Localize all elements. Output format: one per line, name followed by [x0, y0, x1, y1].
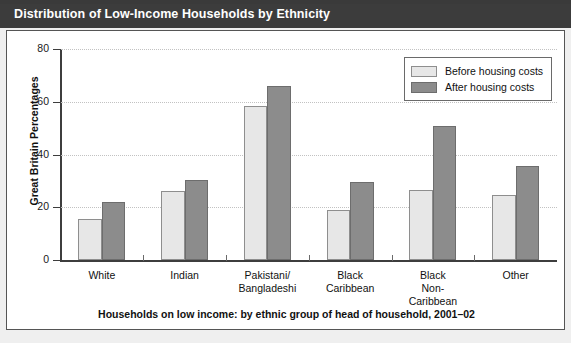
x-axis-group-separator [143, 255, 144, 261]
x-axis-category-label-line: Caribbean [309, 282, 392, 295]
y-axis-tick [53, 207, 61, 208]
bar-before-housing-costs [161, 191, 185, 260]
y-axis-tick-label: 20 [15, 200, 49, 212]
x-axis-category-label: Pakistani/Bangladeshi [226, 269, 309, 295]
x-axis-category-label-line: Black [309, 269, 392, 282]
page-title: Distribution of Low-Income Households by… [14, 7, 330, 21]
x-axis-category-label-line: Non- [392, 282, 475, 295]
legend-swatch-before-icon [411, 66, 437, 77]
figure-caption: Households on low income: by ethnic grou… [7, 308, 566, 320]
x-axis-category-label: Indian [143, 269, 226, 282]
legend-label-after: After housing costs [445, 81, 534, 93]
legend-swatch-after-icon [411, 82, 437, 93]
y-gridline [61, 207, 557, 208]
y-axis-tick [53, 260, 61, 261]
y-axis-tick [53, 49, 61, 50]
chart-legend: Before housing costs After housing costs [404, 57, 552, 101]
bar-after-housing-costs [350, 182, 374, 260]
y-axis-tick-label: 40 [15, 148, 49, 160]
x-axis-group-separator [474, 255, 475, 261]
legend-entry-before: Before housing costs [411, 63, 545, 79]
bar-before-housing-costs [327, 210, 351, 260]
x-axis-category-label-line: Caribbean [392, 295, 475, 308]
legend-entry-after: After housing costs [411, 79, 545, 95]
x-axis-category-label-line: White [61, 269, 144, 282]
x-axis-group-separator [226, 255, 227, 261]
bar-after-housing-costs [516, 166, 540, 260]
y-gridline [61, 155, 557, 156]
x-axis-category-label-line: Black [392, 269, 475, 282]
bar-after-housing-costs [433, 126, 457, 261]
y-axis-tick-label: 60 [15, 95, 49, 107]
y-axis-tick-label: 0 [15, 253, 49, 265]
x-axis-category-label-line: Bangladeshi [226, 282, 309, 295]
y-axis-tick [53, 155, 61, 156]
y-axis-tick-label: 80 [15, 42, 49, 54]
bar-before-housing-costs [78, 219, 102, 260]
x-axis-category-label-line: Pakistani/ [226, 269, 309, 282]
figure-container: Distribution of Low-Income Households by… [0, 0, 571, 343]
y-axis-tick [53, 102, 61, 103]
x-axis-category-label: White [61, 269, 144, 282]
bar-after-housing-costs [102, 202, 126, 260]
x-axis-category-label: BlackCaribbean [309, 269, 392, 295]
figure-title-bar: Distribution of Low-Income Households by… [0, 4, 571, 28]
x-axis-category-label-line: Indian [143, 269, 226, 282]
y-gridline [61, 102, 557, 103]
bar-before-housing-costs [492, 195, 516, 260]
y-gridline [61, 49, 557, 50]
x-axis-category-label-line: Other [474, 269, 557, 282]
x-axis-category-label: BlackNon-Caribbean [392, 269, 475, 308]
bar-before-housing-costs [409, 190, 433, 260]
bar-after-housing-costs [185, 180, 209, 260]
x-axis-group-separator [309, 255, 310, 261]
bar-after-housing-costs [267, 86, 291, 260]
x-axis-category-label: Other [474, 269, 557, 282]
chart-panel: Great Britain Percentages 020406080White… [6, 30, 565, 330]
legend-label-before: Before housing costs [445, 65, 543, 77]
bar-before-housing-costs [244, 106, 268, 260]
x-axis-group-separator [392, 255, 393, 261]
